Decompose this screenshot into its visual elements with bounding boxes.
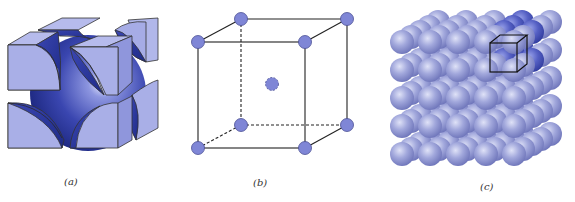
atom-back-bottom-right [341,119,354,132]
atom-back-top-right [341,13,354,26]
panel-b: (b) [180,0,380,202]
atom-aggregate [380,0,575,202]
atom-back-bottom-left [235,119,248,132]
atom-body-center [266,78,279,91]
atom-front-bottom-right [299,142,312,155]
atom-front-bottom-left [192,142,205,155]
caption-c: (c) [480,181,493,192]
caption-b: (b) [253,177,267,188]
panel-a: (a) [0,0,180,202]
atom-back-top-left [235,13,248,26]
panel-c: (c) [380,0,575,202]
caption-a: (a) [64,176,78,187]
reduced-sphere-unit-cell [180,0,380,202]
atom-front-top-left [192,36,205,49]
atom-front-top-right [299,36,312,49]
hard-sphere-unit-cell [0,0,180,202]
